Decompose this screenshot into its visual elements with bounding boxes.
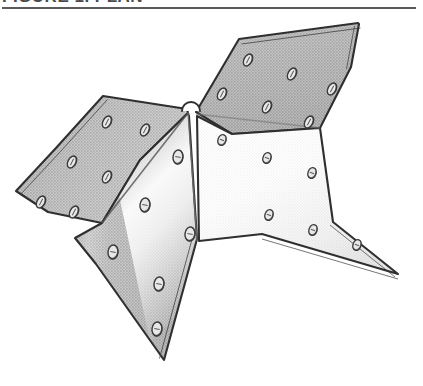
bracket-illustration [0, 12, 423, 386]
figure-title: FIGURE 1. PLAN [2, 0, 143, 7]
figure-page: FIGURE 1. PLAN [0, 0, 423, 386]
apex-semicircular-notch [182, 102, 200, 111]
header-divider-rule [2, 7, 416, 9]
figure-drawing-area [0, 12, 423, 386]
